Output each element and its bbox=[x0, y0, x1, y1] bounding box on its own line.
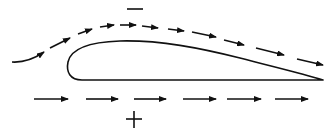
flow-arrow-icon bbox=[12, 52, 44, 62]
flow-arrow-icon bbox=[297, 59, 323, 65]
flow-arrow-icon bbox=[100, 25, 114, 27]
flow-arrow-icon bbox=[192, 32, 216, 37]
flow-arrow-icon bbox=[168, 29, 184, 31]
plus-sign-icon bbox=[126, 111, 142, 128]
airfoil-shape bbox=[68, 41, 323, 80]
flow-arrow-icon bbox=[224, 40, 244, 45]
flow-arrow-icon bbox=[50, 38, 70, 48]
upper-flow-arrows bbox=[12, 25, 323, 65]
flow-arrow-icon bbox=[256, 48, 284, 55]
flow-arrow-icon bbox=[142, 26, 158, 28]
flow-arrow-icon bbox=[78, 29, 92, 34]
airfoil-flow-diagram bbox=[0, 0, 333, 134]
